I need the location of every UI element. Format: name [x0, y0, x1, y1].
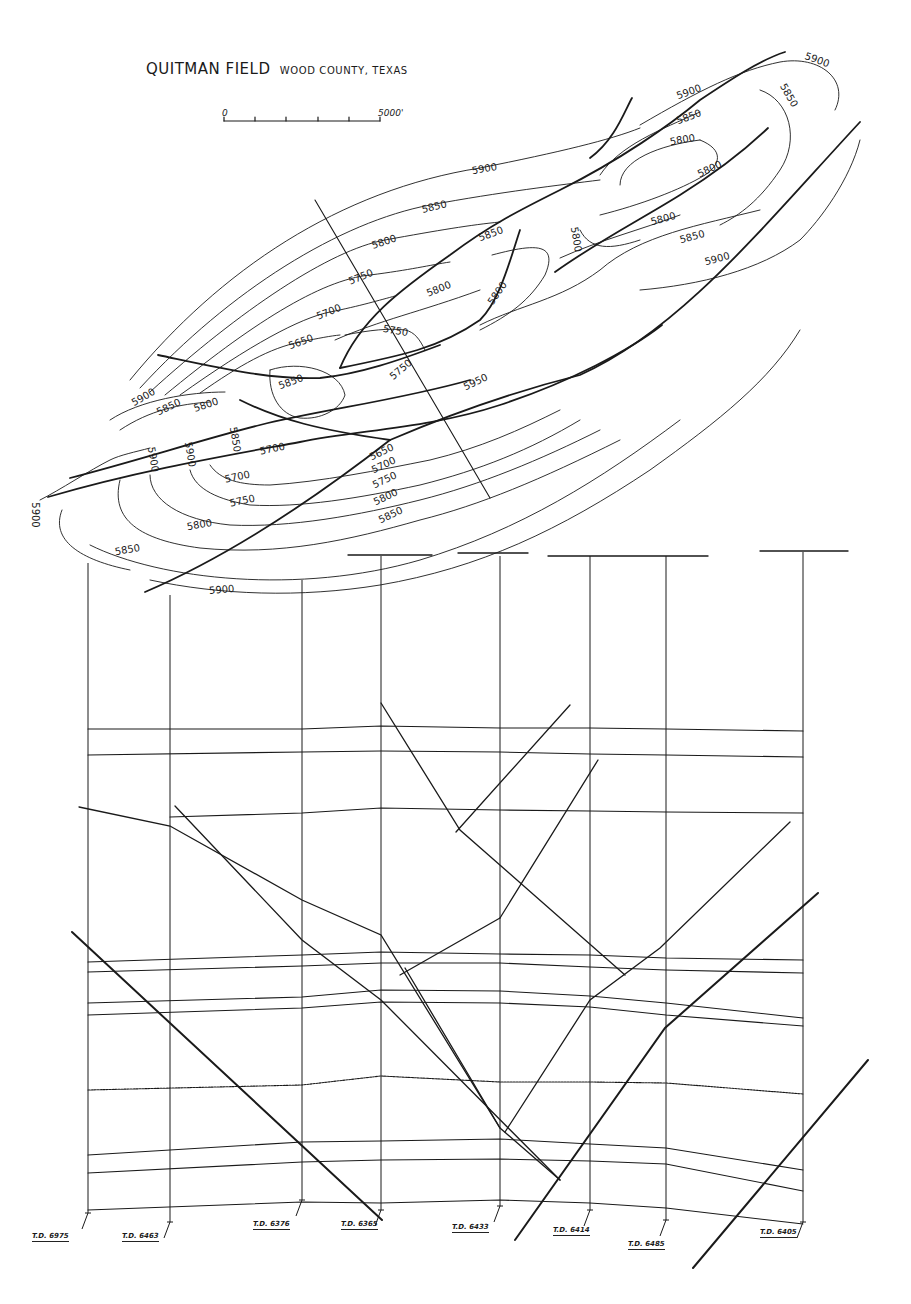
well-td-leader: [164, 1222, 173, 1238]
total-depth-label: T.D. 6433: [452, 1223, 489, 1233]
contour-label: 5850: [114, 542, 141, 557]
total-depth-label: T.D. 6376: [253, 1220, 290, 1230]
wells: [82, 552, 806, 1238]
contour-label: 5750: [347, 267, 375, 287]
contour-label: 5900: [209, 583, 235, 596]
contour-label: 5800: [186, 517, 213, 532]
contour-label: 5800: [425, 279, 453, 299]
contour-label: 5700: [315, 302, 343, 322]
total-depth-label: T.D. 6463: [122, 1232, 159, 1242]
well-td-leader: [494, 1206, 503, 1222]
section-faults: [72, 703, 868, 1268]
contour-label: 5950: [462, 371, 490, 392]
contour-label: 5650: [287, 332, 315, 351]
quitman-field-figure: QUITMAN FIELD WOOD COUNTY, TEXAS 0 5000': [0, 0, 911, 1304]
well-td-leader: [584, 1210, 593, 1226]
well-top-bars: [348, 551, 848, 556]
contour-label: 5800: [192, 396, 220, 414]
faults: [48, 52, 860, 592]
total-depth-label: T.D. 6405: [760, 1228, 797, 1238]
total-depth-label: T.D. 6975: [32, 1232, 69, 1242]
contour-label: 5700: [224, 469, 251, 485]
contour-label: 5850: [675, 107, 703, 126]
total-depth-label: T.D. 6414: [553, 1226, 590, 1236]
horizons: [88, 726, 803, 1224]
contour-label: 5700: [259, 441, 286, 457]
contour-label: 5900: [471, 161, 498, 176]
contour-label: 5800: [569, 226, 584, 253]
contour-label: 5850: [420, 198, 447, 215]
structure-contours: [40, 61, 860, 593]
contour-label: 5850: [678, 228, 705, 245]
contour-label: 5850: [155, 396, 183, 417]
contour-label: 5900: [146, 446, 161, 473]
contour-label: 5800: [485, 279, 509, 306]
contour-label: 5750: [229, 493, 256, 509]
scale-bar: [224, 117, 380, 121]
contour-label: 5850: [778, 81, 800, 109]
total-depth-label: T.D. 6485: [628, 1240, 665, 1250]
structure-map-and-cross-section: 5900585058005750570056505800575058505800…: [0, 0, 911, 1304]
contour-label: 5800: [649, 210, 676, 227]
contour-label: 5900: [30, 502, 41, 527]
contour-label: 5900: [675, 82, 703, 101]
contour-label: 5800: [370, 233, 398, 251]
well-td-leader: [660, 1220, 669, 1236]
well-td-leader: [82, 1213, 91, 1229]
contour-label: 5850: [377, 504, 405, 525]
contour-label: 5900: [803, 50, 831, 69]
contour-labels: 5900585058005750570056505800575058505800…: [30, 50, 831, 596]
well-td-leader: [797, 1222, 806, 1238]
contour-label: 5750: [387, 357, 414, 382]
contour-label: 5850: [477, 224, 505, 243]
total-depth-label: T.D. 6365: [341, 1220, 378, 1230]
contour-label: 5750: [382, 323, 409, 338]
contour-label: 5850: [277, 372, 305, 391]
contour-label: 5800: [669, 132, 696, 147]
